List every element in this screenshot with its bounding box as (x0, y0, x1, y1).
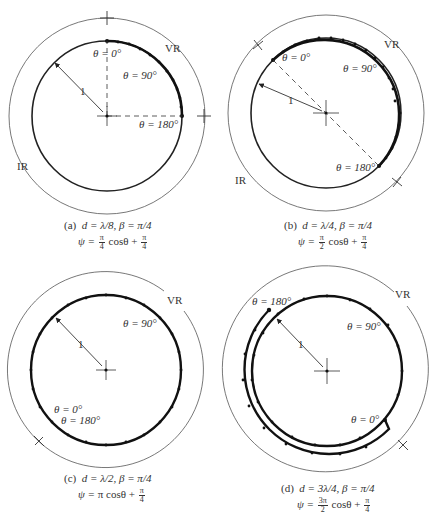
psi-lhs: ψ = (78, 235, 95, 247)
center-dot (325, 369, 328, 372)
caption-beta: β = π/4 (340, 219, 372, 231)
psi-mid: cosθ + (329, 235, 358, 247)
caption-b-line2: ψ = π2 cosθ + π4 (298, 234, 372, 251)
label-ir: IR (235, 174, 247, 186)
psi-lhs: ψ = (297, 498, 314, 510)
label-vr: VR (167, 294, 183, 306)
label-radius-1: 1 (298, 338, 304, 350)
radius-arrow (55, 63, 103, 112)
label-theta-0: θ = 0° (93, 47, 122, 59)
caption-c-line2: ψ = π cosθ + π4 (78, 487, 151, 504)
label-theta-90: θ = 90° (123, 317, 157, 329)
label-radius-1: 1 (80, 85, 86, 97)
psi-mid: cosθ + (109, 235, 138, 247)
caption-prefix: (c) (64, 472, 76, 484)
label-theta-180: θ = 180° (336, 161, 376, 173)
psi-add-frac: π4 (361, 234, 367, 251)
label-radius-1: 1 (78, 338, 84, 350)
panel-d: θ = 180° θ = 90° θ = 0° VR 1 (222, 266, 428, 472)
panel-a: θ = 0° θ = 90° θ = 180° VR IR 1 (9, 11, 211, 214)
label-theta-90: θ = 90° (343, 62, 377, 74)
psi-coef-frac: π2 (319, 234, 325, 251)
label-theta-0: θ = 0° (351, 413, 380, 425)
label-vr: VR (165, 42, 181, 54)
panel-b: θ = 0° θ = 90° θ = 180° VR IR 1 (228, 15, 424, 211)
label-theta-90: θ = 90° (123, 69, 157, 81)
label-theta-180: θ = 180° (139, 118, 179, 130)
psi-add-frac: π4 (141, 234, 147, 251)
array-factor-diagrams: θ = 0° θ = 90° θ = 180° VR IR 1 θ = 0° (0, 0, 438, 528)
vr-boundary-marks (34, 436, 44, 446)
caption-b-line1: (b) d = λ/4, β = π/4 (284, 219, 372, 232)
psi-add-frac: π4 (364, 497, 370, 514)
center-dot (104, 368, 107, 371)
caption-beta: β = π/4 (119, 472, 151, 484)
psi-lhs: ψ = (78, 488, 95, 500)
psi-lhs: ψ = (298, 235, 315, 247)
label-theta-180: θ = 180° (61, 414, 101, 426)
label-ir: IR (17, 160, 29, 172)
caption-b: (b) d = λ/4, β = π/4 ψ = π2 cosθ + π4 (284, 219, 372, 251)
psi-mid: π cosθ + (98, 488, 135, 500)
caption-a: (a) d = λ/8, β = π/4 ψ = π4 cosθ + π4 (64, 219, 151, 251)
panel-c: θ = 0° θ = 180° θ = 90° VR 1 (7, 272, 203, 468)
caption-a-line1: (a) d = λ/8, β = π/4 (64, 219, 151, 232)
center-dot (324, 111, 327, 114)
psi-coef-frac: 3π2 (318, 497, 328, 514)
label-theta-180: θ = 180° (252, 295, 292, 307)
caption-prefix: (a) (64, 219, 76, 231)
psi-coef-frac: π4 (99, 234, 105, 251)
caption-d-line2: ψ = 3π2 cosθ + π4 (297, 497, 375, 514)
vr-boundary-marks (100, 11, 211, 123)
caption-c-line1: (c) d = λ/2, β = π/4 (64, 472, 151, 485)
label-theta-0: θ = 0° (282, 51, 311, 63)
vr-boundary-marks (398, 440, 408, 450)
caption-d: d = λ/8, (82, 219, 117, 231)
caption-a-line2: ψ = π4 cosθ + π4 (78, 234, 151, 251)
caption-beta: β = π/4 (119, 219, 151, 231)
caption-d: (d) d = 3λ/4, β = π/4 ψ = 3π2 cosθ + π4 (281, 482, 375, 514)
caption-beta: β = π/4 (342, 482, 374, 494)
psi-mid: cosθ + (332, 498, 361, 510)
label-vr: VR (384, 38, 400, 50)
caption-prefix: (b) (284, 219, 297, 231)
caption-d: d = 3λ/4, (299, 482, 339, 494)
caption-d: d = λ/4, (302, 219, 337, 231)
center-dot (105, 114, 108, 117)
caption-prefix: (d) (281, 482, 294, 494)
label-theta-90: θ = 90° (347, 320, 381, 332)
label-radius-1: 1 (288, 94, 294, 106)
psi-add-frac: π4 (139, 487, 145, 504)
caption-d-line1: (d) d = 3λ/4, β = π/4 (281, 482, 375, 495)
caption-c: (c) d = λ/2, β = π/4 ψ = π cosθ + π4 (64, 472, 151, 504)
label-vr: VR (395, 288, 411, 300)
caption-d: d = λ/2, (82, 472, 117, 484)
